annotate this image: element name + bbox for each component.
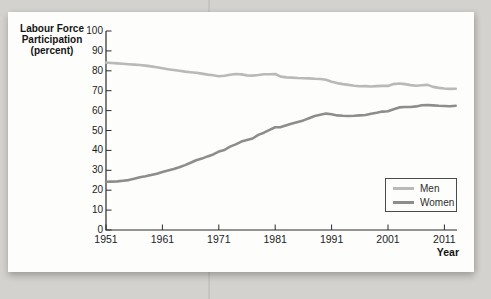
figure-canvas: Labour Force Participation (percent) 010… xyxy=(0,0,491,299)
legend-item-men: Men xyxy=(393,183,456,194)
chart-panel: Labour Force Participation (percent) 010… xyxy=(8,12,474,272)
legend-label: Men xyxy=(420,183,439,194)
y-tick-label: 20 xyxy=(73,185,103,195)
y-tick-label: 30 xyxy=(73,165,103,175)
x-tick-label: 2001 xyxy=(368,234,408,245)
x-axis-title: Year xyxy=(437,246,459,258)
women-line-swatch-icon xyxy=(393,201,414,204)
y-tick-label: 100 xyxy=(73,26,103,36)
y-tick-label: 40 xyxy=(73,145,103,155)
men-line-swatch-icon xyxy=(393,187,414,190)
legend-label: Women xyxy=(420,197,454,208)
y-tick-label: 90 xyxy=(73,46,103,56)
x-tick-label: 1961 xyxy=(142,234,182,245)
x-tick-label: 1991 xyxy=(312,234,352,245)
y-tick-label: 80 xyxy=(73,66,103,76)
y-tick-label: 50 xyxy=(73,126,103,136)
y-tick-label: 60 xyxy=(73,106,103,116)
x-tick-label: 2011 xyxy=(424,234,464,245)
y-tick-label: 70 xyxy=(73,86,103,96)
men-line xyxy=(106,63,456,89)
y-tick-label: 10 xyxy=(73,205,103,215)
x-tick-label: 1971 xyxy=(199,234,239,245)
x-tick-label: 1981 xyxy=(255,234,295,245)
women-line xyxy=(106,105,456,182)
legend-item-women: Women xyxy=(393,197,456,208)
legend-box: MenWomen xyxy=(385,178,457,212)
x-tick-label: 1951 xyxy=(86,234,126,245)
